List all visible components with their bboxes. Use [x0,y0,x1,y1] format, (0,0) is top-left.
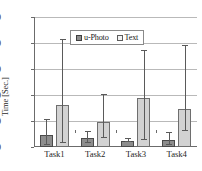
chart-legend: u-Photo Text [70,30,144,45]
x-tick-label-task4: Task4 [156,149,197,159]
y-tick-mark [31,95,34,96]
y-tick-mark [31,147,34,148]
y-tick-mark [31,17,34,18]
bar-chart: Time [Sec.] 050100150200250 Task1Task2Ta… [0,0,202,171]
x-tick-mark [156,130,157,133]
gridline [35,95,197,96]
x-tick-label-task3: Task3 [116,149,157,159]
y-tick-mark [31,121,34,122]
y-tick-label: 100 [0,90,1,100]
gridline [35,69,197,70]
legend-swatch-uphoto-icon [76,35,82,41]
y-tick-mark [31,69,34,70]
x-tick-mark [75,130,76,133]
gridline [35,17,197,18]
legend-entry-uphoto: u-Photo [76,33,109,42]
legend-label-uphoto: u-Photo [84,33,109,42]
y-tick-label: 0 [0,142,1,152]
y-tick-label: 250 [0,12,1,22]
y-tick-label: 150 [0,64,1,74]
legend-swatch-text-icon [117,35,123,41]
legend-entry-text: Text [117,33,139,42]
gridline [35,121,197,122]
y-tick-label: 50 [0,116,1,126]
x-axis-labels: Task1Task2Task3Task4 [34,149,197,159]
y-tick-label: 200 [0,38,1,48]
y-axis-title: Time [Sec.] [0,102,10,116]
x-tick-label-task2: Task2 [75,149,116,159]
x-tick-label-task1: Task1 [34,149,75,159]
y-tick-mark [31,43,34,44]
x-tick-mark [116,130,117,133]
legend-label-text: Text [125,33,139,42]
